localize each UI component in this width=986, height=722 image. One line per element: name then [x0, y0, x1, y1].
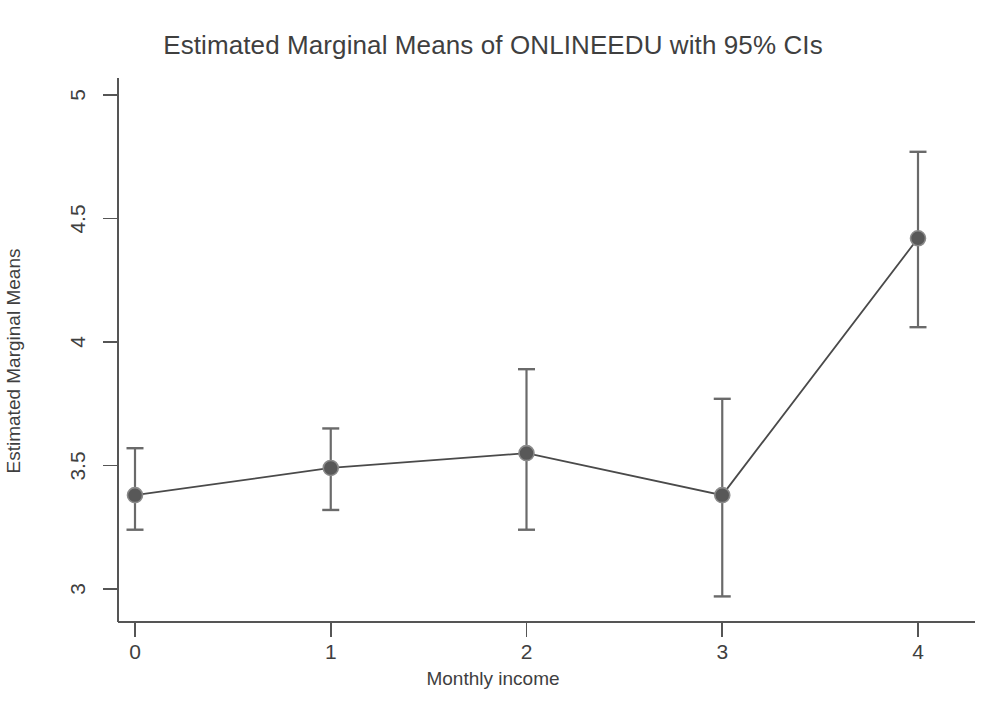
data-point-marker — [323, 460, 338, 475]
data-point-marker — [911, 231, 926, 246]
y-tick-label: 3 — [66, 583, 90, 595]
x-axis-title: Monthly income — [0, 668, 986, 690]
axes-group — [118, 78, 975, 622]
error-bars — [127, 152, 927, 597]
y-tick-label: 4.5 — [66, 204, 90, 233]
data-point-marker — [519, 446, 534, 461]
x-tick-label: 0 — [129, 640, 141, 664]
x-tick-marks — [135, 622, 918, 637]
y-tick-label: 3.5 — [66, 451, 90, 480]
chart-figure: Estimated Marginal Means of ONLINEEDU wi… — [0, 0, 986, 722]
data-point-marker — [128, 488, 143, 503]
y-axis-title: Estimated Marginal Means — [3, 249, 25, 474]
x-tick-label: 2 — [521, 640, 533, 664]
y-tick-marks — [103, 95, 118, 589]
x-tick-label: 4 — [912, 640, 924, 664]
y-tick-label: 4 — [66, 336, 90, 348]
y-tick-label: 5 — [66, 89, 90, 101]
x-tick-label: 3 — [716, 640, 728, 664]
plot-area — [0, 0, 986, 722]
x-tick-label: 1 — [325, 640, 337, 664]
data-point-marker — [715, 488, 730, 503]
